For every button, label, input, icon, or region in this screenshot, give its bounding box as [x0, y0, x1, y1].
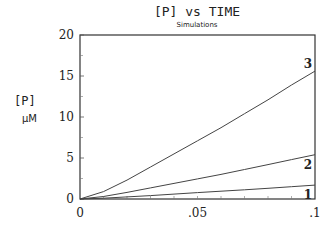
y-tick-label: 15: [59, 69, 74, 83]
y-tick-label: 5: [66, 151, 74, 165]
y-tick-label: 10: [59, 110, 74, 124]
series-labels: 123: [304, 57, 312, 202]
series-lines: [80, 71, 315, 199]
y-tick-label: 20: [59, 28, 74, 42]
x-tick-label: 0: [76, 206, 84, 220]
x-tick-label: .05: [188, 206, 207, 220]
series-label-1: 1: [304, 188, 312, 202]
plot-frame: [80, 35, 315, 199]
y-tick-label: 0: [66, 192, 74, 206]
series-line-3: [80, 71, 315, 199]
x-tick-label: .1: [309, 206, 320, 220]
axis-ticks: 051015200.05.1: [59, 28, 321, 220]
plot-axes: [80, 35, 315, 199]
series-label-2: 2: [304, 158, 312, 172]
series-label-3: 3: [304, 57, 312, 71]
line-chart: 051015200.05.1 123: [0, 0, 334, 230]
